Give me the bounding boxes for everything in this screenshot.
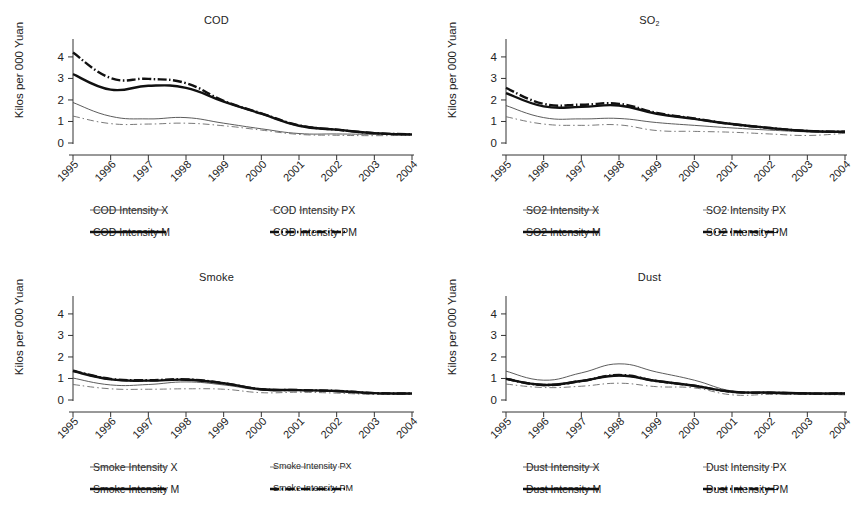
- panel-dust: Dust Kilos per 000 Yuan 0123419951996199…: [433, 257, 866, 513]
- panel-so2: SO2 Kilos per 000 Yuan 01234199519961997…: [433, 0, 866, 256]
- legend-item[interactable]: Dust Intensity PM: [701, 483, 788, 495]
- x-tick-label: 1996: [525, 415, 551, 441]
- legend-item[interactable]: SO2 Intensity PM: [701, 226, 788, 238]
- x-tick-label: 2004: [394, 158, 420, 184]
- legend-swatch: [701, 204, 781, 216]
- y-tick-label: 0: [491, 137, 497, 149]
- legend-item[interactable]: SO2 Intensity M: [521, 226, 601, 238]
- legend-swatch: [701, 483, 781, 495]
- x-tick-label: 1997: [563, 158, 589, 184]
- legend-item[interactable]: Dust Intensity PX: [701, 461, 787, 473]
- y-tick-label: 2: [58, 351, 64, 363]
- y-tick-label: 4: [58, 308, 65, 320]
- x-tick-label: 2001: [281, 415, 307, 441]
- x-tick-label: 2002: [751, 158, 777, 184]
- x-tick-label: 2002: [318, 158, 344, 184]
- x-tick-label: 1996: [92, 158, 118, 184]
- x-tick-label: 1995: [488, 415, 514, 441]
- x-tick-label: 1996: [525, 158, 551, 184]
- legend-item[interactable]: Smoke Intensity X: [88, 461, 178, 473]
- x-tick-label: 1997: [563, 415, 589, 441]
- legend-so2: SO2 Intensity XSO2 Intensity PXSO2 Inten…: [433, 198, 866, 256]
- legend-item[interactable]: SO2 Intensity PX: [701, 204, 786, 216]
- x-tick-label: 2001: [714, 415, 740, 441]
- legend-item[interactable]: COD Intensity PX: [268, 204, 355, 216]
- x-tick-label: 2002: [318, 415, 344, 441]
- x-tick-label: 1996: [92, 415, 118, 441]
- y-tick-label: 0: [58, 137, 64, 149]
- legend-item[interactable]: Dust Intensity M: [521, 483, 601, 495]
- y-tick-label: 1: [491, 115, 497, 127]
- legend-swatch: [268, 204, 348, 216]
- legend-item[interactable]: COD Intensity M: [88, 226, 170, 238]
- legend-swatch: [521, 461, 601, 473]
- series-line: [506, 117, 845, 136]
- series-line: [506, 93, 845, 132]
- legend-item[interactable]: Smoke Intensity PX: [268, 461, 352, 471]
- x-tick-label: 1995: [488, 158, 514, 184]
- x-tick-label: 1999: [638, 158, 664, 184]
- legend-item[interactable]: Smoke Intensity PM: [268, 483, 353, 493]
- y-tick-label: 1: [58, 372, 64, 384]
- series-line: [73, 371, 412, 393]
- y-tick-label: 1: [58, 115, 64, 127]
- legend-item[interactable]: SO2 Intensity X: [521, 204, 599, 216]
- x-tick-label: 2003: [789, 415, 815, 441]
- series-line: [506, 88, 845, 132]
- series-line: [73, 74, 412, 134]
- x-tick-label: 2003: [789, 158, 815, 184]
- x-tick-label: 2003: [356, 415, 382, 441]
- y-tick-label: 3: [58, 72, 64, 84]
- legend-item[interactable]: COD Intensity X: [88, 204, 168, 216]
- x-tick-label: 2001: [714, 158, 740, 184]
- x-tick-label: 2002: [751, 415, 777, 441]
- x-tick-label: 1999: [205, 158, 231, 184]
- x-tick-label: 1995: [55, 415, 81, 441]
- legend-swatch: [521, 204, 601, 216]
- x-tick-label: 2000: [243, 415, 269, 441]
- x-tick-label: 1999: [638, 415, 664, 441]
- y-tick-label: 3: [491, 72, 497, 84]
- legend-smoke: Smoke Intensity XSmoke Intensity PXSmoke…: [0, 455, 433, 513]
- legend-item[interactable]: Smoke Intensity M: [88, 483, 179, 495]
- legend-swatch: [521, 483, 601, 495]
- y-tick-label: 3: [491, 329, 497, 341]
- x-tick-label: 1997: [130, 158, 156, 184]
- x-tick-label: 2000: [243, 158, 269, 184]
- legend-swatch: [268, 461, 348, 473]
- legend-swatch: [88, 461, 168, 473]
- series-line: [73, 371, 412, 394]
- series-line: [506, 364, 845, 393]
- y-tick-label: 4: [491, 51, 498, 63]
- legend-item[interactable]: COD Intensity PM: [268, 226, 357, 238]
- legend-swatch: [701, 226, 781, 238]
- y-tick-label: 2: [491, 94, 497, 106]
- x-tick-label: 1998: [601, 158, 627, 184]
- x-tick-label: 1998: [168, 158, 194, 184]
- panel-smoke: Smoke Kilos per 000 Yuan 012341995199619…: [0, 257, 433, 513]
- y-tick-label: 0: [58, 394, 64, 406]
- series-line: [73, 53, 412, 135]
- y-tick-label: 4: [58, 51, 65, 63]
- y-tick-label: 2: [58, 94, 64, 106]
- y-tick-label: 3: [58, 329, 64, 341]
- legend-swatch: [88, 483, 168, 495]
- panel-cod: COD Kilos per 000 Yuan 01234199519961997…: [0, 0, 433, 256]
- legend-swatch: [268, 483, 348, 495]
- legend-swatch: [88, 226, 168, 238]
- x-tick-label: 2004: [827, 158, 853, 184]
- legend-dust: Dust Intensity XDust Intensity PXDust In…: [433, 455, 866, 513]
- legend-item[interactable]: Dust Intensity X: [521, 461, 600, 473]
- figure-grid: COD Kilos per 000 Yuan 01234199519961997…: [0, 0, 866, 513]
- x-tick-label: 2000: [676, 158, 702, 184]
- x-tick-label: 2004: [827, 415, 853, 441]
- x-tick-label: 2000: [676, 415, 702, 441]
- series-line: [506, 106, 845, 133]
- y-tick-label: 4: [491, 308, 498, 320]
- series-line: [506, 375, 845, 394]
- legend-swatch: [268, 226, 348, 238]
- legend-swatch: [88, 204, 168, 216]
- x-tick-label: 2001: [281, 158, 307, 184]
- x-tick-label: 1998: [168, 415, 194, 441]
- x-tick-label: 1995: [55, 158, 81, 184]
